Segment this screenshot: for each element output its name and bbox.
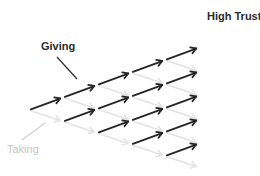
taking-arrow-icon — [99, 86, 128, 97]
giving-leader-line — [57, 57, 77, 79]
giving-arrow-icon — [133, 132, 162, 144]
taking-arrow-icon — [133, 73, 162, 84]
giving-arrow-icon — [133, 84, 162, 96]
taking-arrow-icon — [133, 121, 162, 132]
giving-arrow-icon — [167, 143, 196, 155]
taking-arrow-icon — [167, 85, 196, 96]
giving-arrow-icon — [31, 97, 60, 109]
giving-arrow-icon — [65, 85, 94, 97]
giving-arrow-icon — [167, 95, 196, 107]
trust-lattice-diagram — [0, 0, 260, 176]
giving-label: Giving — [41, 41, 75, 52]
taking-leader-line — [22, 123, 45, 140]
giving-arrow-icon — [99, 120, 128, 132]
taking-arrow-icon — [167, 133, 196, 144]
taking-arrow-icon — [167, 157, 196, 168]
taking-arrows — [31, 61, 196, 168]
giving-arrow-icon — [167, 47, 196, 59]
giving-arrow-icon — [99, 72, 128, 84]
taking-label: Taking — [7, 144, 39, 155]
giving-arrow-icon — [167, 119, 196, 131]
giving-arrow-icon — [167, 71, 196, 83]
taking-arrow-icon — [133, 145, 162, 156]
taking-arrow-icon — [167, 61, 196, 72]
high-trust-label: High Trust — [207, 11, 260, 22]
taking-arrow-icon — [133, 97, 162, 108]
taking-arrow-icon — [167, 109, 196, 120]
taking-arrow-icon — [99, 134, 128, 145]
giving-arrow-icon — [65, 109, 94, 121]
giving-arrow-icon — [133, 108, 162, 120]
taking-arrow-icon — [65, 98, 94, 109]
taking-arrow-icon — [99, 110, 128, 121]
giving-arrow-icon — [133, 60, 162, 72]
taking-arrow-icon — [31, 111, 60, 122]
giving-arrow-icon — [99, 96, 128, 108]
taking-arrow-icon — [65, 122, 94, 133]
